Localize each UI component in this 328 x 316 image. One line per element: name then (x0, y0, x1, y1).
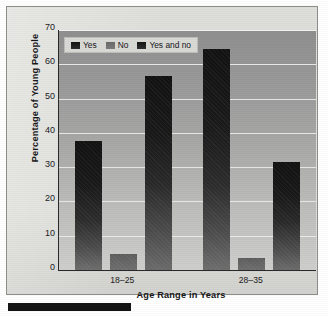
figure-container: Percentage of Young People 7060504030201… (0, 0, 328, 316)
chart-legend: YesNoYes and no (64, 37, 198, 53)
bar-texture (203, 49, 230, 270)
legend-item: Yes and no (137, 41, 191, 50)
legend-item-label: Yes (83, 41, 97, 50)
legend-item-label: No (118, 41, 129, 50)
bar (75, 141, 102, 270)
legend-item: Yes (71, 41, 97, 50)
legend-swatch-icon (71, 42, 80, 49)
y-axis-tick-label: 0 (35, 263, 55, 272)
legend-swatch-icon (137, 42, 146, 49)
bar (238, 258, 265, 270)
y-axis-tick-label: 10 (35, 229, 55, 238)
chart-panel: Percentage of Young People 7060504030201… (6, 6, 318, 295)
legend-item-label: Yes and no (149, 41, 191, 50)
y-axis-tick-label: 50 (35, 92, 55, 101)
gridline (59, 133, 316, 134)
bar-texture (238, 258, 265, 270)
gridline (59, 99, 316, 100)
bar (203, 49, 230, 270)
y-axis-tick-label: 30 (35, 160, 55, 169)
legend-item: No (106, 41, 129, 50)
bar-texture (110, 254, 137, 270)
plot-top-gridline (59, 30, 316, 31)
bar-texture (145, 76, 172, 270)
y-axis-tick-label: 20 (35, 194, 55, 203)
gridline (59, 64, 316, 65)
y-axis-tick-label: 60 (35, 57, 55, 66)
bar (145, 76, 172, 270)
y-axis-tick-label: 70 (35, 23, 55, 32)
x-axis-title: Age Range in Years (47, 290, 315, 300)
y-axis-tick-labels: 706050403020100 (31, 27, 55, 277)
bar (273, 162, 300, 270)
caption-rule-artifact (8, 303, 131, 311)
legend-swatch-icon (106, 42, 115, 49)
bar-texture (75, 141, 102, 270)
bar (110, 254, 137, 270)
plot-area (58, 30, 316, 271)
x-axis-tick-label: 28–35 (221, 275, 281, 285)
x-axis-tick-label: 18–25 (92, 275, 152, 285)
bar-texture (273, 162, 300, 270)
y-axis-tick-label: 40 (35, 126, 55, 135)
